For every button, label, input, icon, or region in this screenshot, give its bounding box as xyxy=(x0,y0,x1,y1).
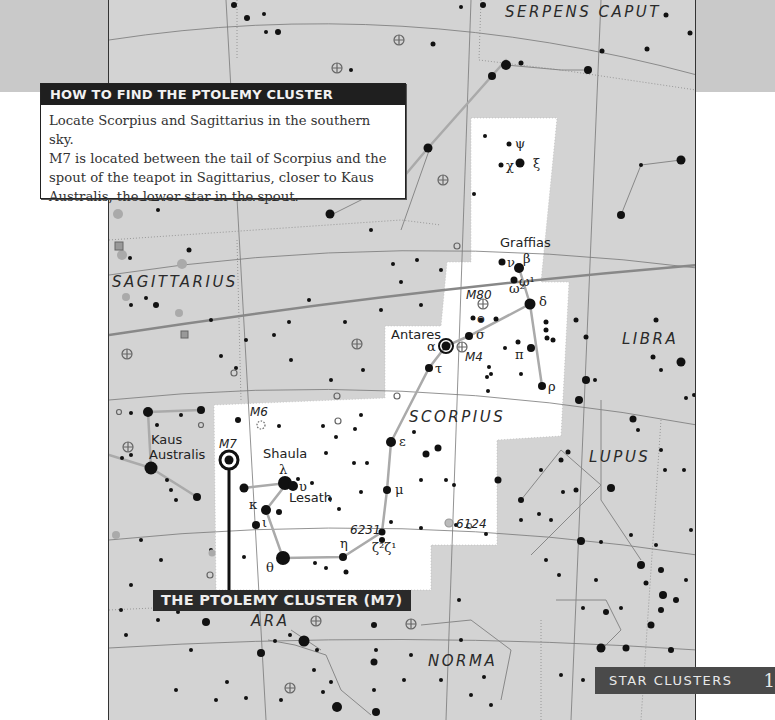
label-scorpius: SCORPIUS xyxy=(409,408,505,426)
label-libra: LIBRA xyxy=(622,330,678,348)
label-m4: M4 xyxy=(465,350,483,364)
label-epsilon: ε xyxy=(399,434,406,449)
label-lesath: Lesath xyxy=(289,490,332,505)
label-mu: μ xyxy=(395,482,403,497)
label-m80: M80 xyxy=(466,288,492,302)
section-label: STAR CLUSTERS xyxy=(609,667,733,694)
how-to-find-box: HOW TO FIND THE PTOLEMY CLUSTER Locate S… xyxy=(40,83,406,199)
page-number: 1 xyxy=(764,667,775,694)
label-omega1: ω¹ xyxy=(519,274,535,289)
label-theta: θ xyxy=(266,560,274,575)
label-zeta: ζ²ζ¹ xyxy=(372,540,397,555)
label-shaula: Shaula xyxy=(263,446,307,461)
label-m6: M6 xyxy=(250,405,268,419)
label-xi: ξ xyxy=(533,156,540,171)
label-nu: ν xyxy=(507,255,515,270)
label-kappa: κ xyxy=(249,497,257,512)
globular-symbol xyxy=(394,35,404,45)
label-lambda: λ xyxy=(279,462,287,477)
label-delta: δ xyxy=(539,294,547,309)
label-sigma: σ xyxy=(476,327,485,342)
label-norma: NORMA xyxy=(428,652,497,670)
label-ngc6124: 6124 xyxy=(456,517,487,531)
label-omicron: ο xyxy=(477,311,485,326)
label-kaus-australis-1: Kaus xyxy=(151,432,182,447)
label-beta: β xyxy=(523,251,531,266)
label-iota: ι xyxy=(262,515,267,530)
label-eta: η xyxy=(340,536,348,551)
label-kaus-australis-2: Australis xyxy=(149,447,205,462)
label-chi: χ xyxy=(506,158,514,173)
label-ngc6231: 6231 xyxy=(350,523,381,537)
label-m7: M7 xyxy=(219,437,237,451)
how-to-find-body: Locate Scorpius and Sagittarius in the s… xyxy=(41,105,405,206)
label-serpens-caput: SERPENS CAPUT xyxy=(505,3,661,21)
label-tau: τ xyxy=(435,361,442,376)
body-line: spout of the teapot in Sagittarius, clos… xyxy=(49,168,397,187)
label-graffias: Graffias xyxy=(500,235,551,250)
label-pi: π xyxy=(515,347,524,362)
label-alpha: α xyxy=(427,339,436,354)
label-rho: ρ xyxy=(548,379,556,394)
body-line: Locate Scorpius and Sagittarius in the s… xyxy=(49,111,397,149)
label-lupus: LUPUS xyxy=(589,448,650,466)
section-footer-tab: STAR CLUSTERS 1 xyxy=(595,667,775,694)
label-psi: ψ xyxy=(515,136,525,151)
label-upsilon: υ xyxy=(299,479,307,494)
label-ara: ARA xyxy=(251,612,289,630)
body-line: Australis, the lower star in the spout. xyxy=(49,187,397,206)
ptolemy-cluster-callout: THE PTOLEMY CLUSTER (M7) xyxy=(153,590,411,611)
label-sagittarius: SAGITTARIUS xyxy=(112,273,238,291)
body-line: M7 is located between the tail of Scorpi… xyxy=(49,149,397,168)
how-to-find-title: HOW TO FIND THE PTOLEMY CLUSTER xyxy=(41,84,405,105)
